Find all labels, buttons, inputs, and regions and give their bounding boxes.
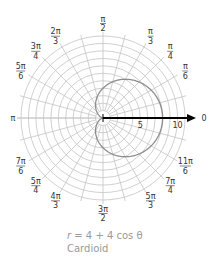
- svg-text:7π: 7π: [16, 157, 26, 166]
- polar-chart: 0π6π4π3π22π33π45π6π7π65π44π33π25π37π411π…: [0, 0, 217, 267]
- svg-text:5π: 5π: [16, 62, 26, 71]
- svg-text:3: 3: [148, 201, 153, 210]
- grid-spoke: [108, 57, 164, 113]
- svg-text:4: 4: [168, 52, 173, 61]
- svg-text:4: 4: [33, 52, 38, 61]
- svg-text:2π: 2π: [51, 27, 61, 36]
- grid-spoke: [29, 122, 97, 161]
- svg-text:3π: 3π: [31, 42, 41, 51]
- svg-text:6: 6: [183, 72, 188, 81]
- grid-spoke: [42, 123, 98, 179]
- angle-label: 5π6: [16, 62, 26, 81]
- svg-text:5π: 5π: [146, 192, 156, 201]
- svg-text:π: π: [148, 27, 153, 36]
- svg-text:6: 6: [18, 72, 23, 81]
- arrow-head-icon: [187, 114, 196, 122]
- angle-label: 5π3: [146, 192, 156, 211]
- angle-label: 3π2: [98, 205, 108, 224]
- grid-spoke: [60, 44, 99, 112]
- svg-text:2: 2: [100, 24, 105, 33]
- angle-label: 4π3: [51, 192, 61, 211]
- grid-spoke: [107, 124, 146, 192]
- angle-label: 5π4: [31, 177, 41, 196]
- angle-label: π2: [100, 15, 106, 34]
- svg-text:4: 4: [33, 186, 38, 195]
- equation-rest: = 4 + 4 cos θ: [71, 230, 143, 241]
- angle-label: π3: [148, 27, 154, 46]
- grid-spoke: [42, 57, 98, 113]
- angle-label: 7π6: [16, 157, 26, 176]
- angle-label: 0: [201, 114, 206, 123]
- svg-text:3: 3: [148, 37, 153, 46]
- svg-text:4π: 4π: [51, 192, 61, 201]
- grid-spoke: [108, 123, 164, 179]
- radial-tick-labels: 510: [138, 121, 183, 130]
- svg-text:π: π: [168, 42, 173, 51]
- angle-label: 11π6: [178, 157, 193, 176]
- svg-text:3: 3: [53, 37, 58, 46]
- grid-spoke: [109, 122, 177, 161]
- angle-label: 7π4: [165, 177, 175, 196]
- curve-name-caption: Cardioid: [67, 243, 108, 255]
- equation-caption: r = 4 + 4 cos θ: [67, 230, 143, 242]
- svg-text:4: 4: [168, 186, 173, 195]
- svg-text:3π: 3π: [98, 205, 108, 214]
- polar-plot: 0π6π4π3π22π33π45π6π7π65π44π33π25π37π411π…: [0, 0, 217, 267]
- svg-text:6: 6: [18, 167, 23, 176]
- grid-spoke: [60, 124, 99, 192]
- svg-text:3: 3: [53, 201, 58, 210]
- grid-spoke: [107, 44, 146, 112]
- grid-spoke: [109, 75, 177, 114]
- svg-text:11π: 11π: [178, 157, 193, 166]
- angle-label: 3π4: [31, 42, 41, 61]
- svg-text:π: π: [183, 62, 188, 71]
- angle-label: π6: [182, 62, 188, 81]
- grid-spoke: [29, 75, 97, 114]
- radial-tick-label: 10: [172, 121, 182, 130]
- svg-text:7π: 7π: [165, 177, 175, 186]
- svg-text:6: 6: [183, 167, 188, 176]
- svg-text:5π: 5π: [31, 177, 41, 186]
- angle-label: π4: [167, 42, 173, 61]
- radial-tick-label: 5: [138, 121, 143, 130]
- angle-label: π: [11, 114, 16, 123]
- angle-label: 2π3: [51, 27, 61, 46]
- svg-text:π: π: [101, 15, 106, 24]
- svg-text:2: 2: [100, 214, 105, 223]
